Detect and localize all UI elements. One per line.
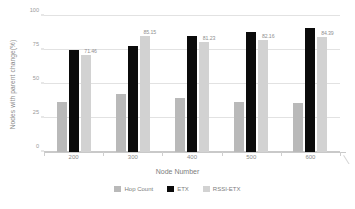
y-tick-label: 75: [33, 41, 39, 47]
x-axis-title: Node Number: [0, 168, 355, 175]
bar: 84.39: [317, 37, 327, 152]
x-tick-mark: [44, 152, 45, 156]
bar-value-label: 82.16: [262, 33, 274, 39]
legend-swatch-icon: [203, 186, 210, 192]
bar: [187, 36, 197, 152]
bar-value-label: 71.46: [84, 48, 96, 54]
legend-swatch-icon: [114, 186, 121, 192]
x-tick-label: 300: [103, 154, 162, 160]
bar: [69, 50, 79, 152]
bar: [293, 103, 303, 152]
bar-chart-figure: Nodes with parent change(%) 0255075100 7…: [0, 0, 355, 209]
bar: 85.15: [140, 36, 150, 152]
x-tick-mark: [162, 152, 163, 156]
legend-label: ETX: [177, 186, 189, 192]
bar-groups: 71.4685.1581.2382.1684.39: [44, 16, 340, 152]
chart-legend: Hop CountETXRSSI-ETX: [0, 186, 355, 192]
y-tick-label: 0: [36, 143, 39, 149]
bar-group: 85.15: [103, 16, 162, 152]
x-tick-label: 200: [44, 154, 103, 160]
x-tick-label: 500: [222, 154, 281, 160]
legend-label: RSSI-ETX: [213, 186, 241, 192]
bar: 82.16: [258, 40, 268, 152]
y-tick-label: 25: [33, 109, 39, 115]
x-tick-mark: [222, 152, 223, 156]
legend-swatch-icon: [167, 186, 174, 192]
bar: [175, 98, 185, 152]
bar: 71.46: [81, 55, 91, 152]
bar-value-label: 84.39: [321, 30, 333, 36]
y-axis-title-text: Nodes with parent change(%): [10, 39, 17, 129]
x-tick-mark: [103, 152, 104, 156]
bar: [57, 102, 67, 152]
y-tick-label: 100: [30, 7, 39, 13]
bar-value-label: 81.23: [203, 35, 215, 41]
x-tick-label: 600: [281, 154, 340, 160]
bar: [128, 46, 138, 152]
bar: [234, 102, 244, 152]
legend-item[interactable]: ETX: [167, 186, 189, 192]
axis-break-slash-icon: [343, 155, 351, 164]
bar-group: 84.39: [281, 16, 340, 152]
x-tick-label: 400: [162, 154, 221, 160]
x-axis-tick-labels: 200300400500600: [44, 154, 340, 160]
legend-item[interactable]: RSSI-ETX: [203, 186, 241, 192]
x-axis-line: [44, 152, 346, 153]
bar: [116, 94, 126, 152]
legend-label: Hop Count: [124, 186, 153, 192]
x-tick-mark: [340, 152, 341, 156]
plot-area: 0255075100 71.4685.1581.2382.1684.39: [44, 16, 340, 152]
bar-group: 71.46: [44, 16, 103, 152]
bar: 81.23: [199, 42, 209, 152]
legend-item[interactable]: Hop Count: [114, 186, 153, 192]
x-tick-mark: [281, 152, 282, 156]
bar: [305, 28, 315, 152]
y-axis-title: Nodes with parent change(%): [6, 14, 20, 154]
bar-group: 81.23: [162, 16, 221, 152]
y-tick-label: 50: [33, 75, 39, 81]
bar: [246, 32, 256, 152]
bar-group: 82.16: [222, 16, 281, 152]
bar-value-label: 85.15: [144, 29, 156, 35]
